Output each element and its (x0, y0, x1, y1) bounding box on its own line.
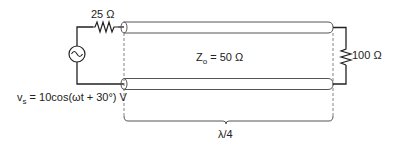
source-resistor-label: 25 Ω (91, 9, 115, 20)
load-resistor-label: 100 Ω (352, 50, 382, 61)
ac-voltage-source-icon (69, 46, 85, 62)
source-subscript: s (23, 97, 27, 106)
line-length-label: λ/4 (218, 129, 233, 140)
source-symbol: v (17, 91, 23, 103)
length-brace (124, 116, 333, 124)
source-expression: = 10cos(ωt + 30°) V (27, 91, 127, 103)
source-voltage-label: vs = 10cos(ωt + 30°) V (17, 92, 127, 103)
circuit-diagram (0, 0, 397, 143)
source-wires (77, 27, 124, 84)
impedance-subscript: o (203, 57, 207, 66)
impedance-value: = 50 Ω (207, 51, 243, 63)
characteristic-impedance-label: Zo = 50 Ω (196, 52, 243, 63)
transmission-line-top-conductor (121, 22, 333, 33)
impedance-symbol: Z (196, 51, 203, 63)
load-resistor-icon (341, 47, 351, 65)
length-reference-lines (124, 33, 333, 118)
transmission-line-bottom-conductor (121, 79, 333, 90)
source-resistor-icon (93, 22, 118, 32)
